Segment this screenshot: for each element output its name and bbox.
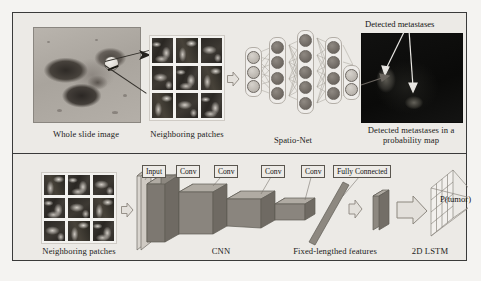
caption-probability-map: Detected metastases in a probability map [349,125,473,145]
detected-metastases-annotation-label: Detected metastases [365,19,434,29]
caption-cnn: CNN [191,246,251,256]
panel-network-architecture: Input Conv Conv Conv Conv Fully Connecte… [13,153,466,262]
caption-neighboring-patches-bottom: Neighboring patches [27,246,131,256]
caption-neighboring-patches: Neighboring patches [137,129,237,139]
figure-frame: Detected metastases Whole slide image Ne… [12,12,467,261]
caption-fixed-length-features: Fixed-lengthed features [279,246,391,256]
caption-2d-lstm: 2D LSTM [398,246,462,256]
caption-spatio-net: Spatio-Net [253,135,333,145]
label-p-tumor: P(tumor) [440,194,471,204]
panel-pipeline-overview: Detected metastases Whole slide image Ne… [13,13,466,153]
caption-whole-slide-image: Whole slide image [27,129,145,139]
